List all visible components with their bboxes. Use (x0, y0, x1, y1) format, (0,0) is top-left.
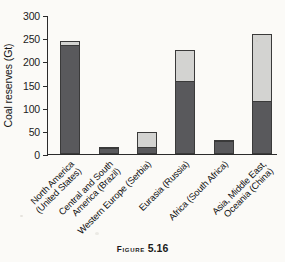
bar (214, 140, 234, 154)
bar-segment (175, 50, 195, 82)
bar-segment (252, 34, 272, 102)
x-axis-label: Africa (South Africa) (138, 159, 230, 251)
bar-segment (99, 148, 119, 154)
y-axis-tick: 200 (43, 62, 48, 63)
y-axis-tick: 50 (43, 132, 48, 133)
x-axis-label: Western Europe (Serbia) (61, 159, 153, 251)
bar (137, 132, 157, 154)
bar-segment (137, 147, 157, 154)
scan-speck (256, 40, 258, 42)
caption-number: 5.16 (148, 242, 168, 254)
scan-speck (95, 232, 99, 235)
y-axis-tick-label: 150 (23, 80, 40, 92)
y-axis-tick-label: 200 (23, 56, 40, 68)
y-axis-tick: 100 (43, 109, 48, 110)
y-axis-tick-label: 250 (23, 33, 40, 45)
bar-segment (137, 132, 157, 147)
y-axis-tick: 0 (43, 155, 48, 156)
bar-segment (214, 141, 234, 154)
bar (175, 50, 195, 154)
bar-segment (60, 45, 80, 154)
y-axis-tick: 150 (43, 86, 48, 87)
bars-container (48, 16, 277, 154)
bar-segment (175, 81, 195, 154)
bar (60, 41, 80, 155)
scan-speck (20, 215, 23, 217)
bar (99, 147, 119, 154)
y-axis-title: Coal reserves (Gt) (2, 16, 14, 155)
caption-word: Figure (117, 245, 145, 254)
figure-page: 050100150200250300 Coal reserves (Gt) No… (0, 0, 285, 262)
bar (252, 34, 272, 154)
y-axis-tick-label: 100 (23, 103, 40, 115)
plot-area: 050100150200250300 (47, 16, 277, 155)
y-axis-tick-label: 0 (34, 149, 40, 161)
y-axis-tick: 300 (43, 16, 48, 17)
y-axis-tick-label: 300 (23, 10, 40, 22)
y-axis-tick-label: 50 (29, 126, 40, 138)
x-axis-label: Eurasia (Russia) (99, 159, 191, 251)
figure-caption: Figure 5.16 (0, 242, 285, 254)
y-axis-tick: 250 (43, 39, 48, 40)
bar-segment (252, 101, 272, 154)
